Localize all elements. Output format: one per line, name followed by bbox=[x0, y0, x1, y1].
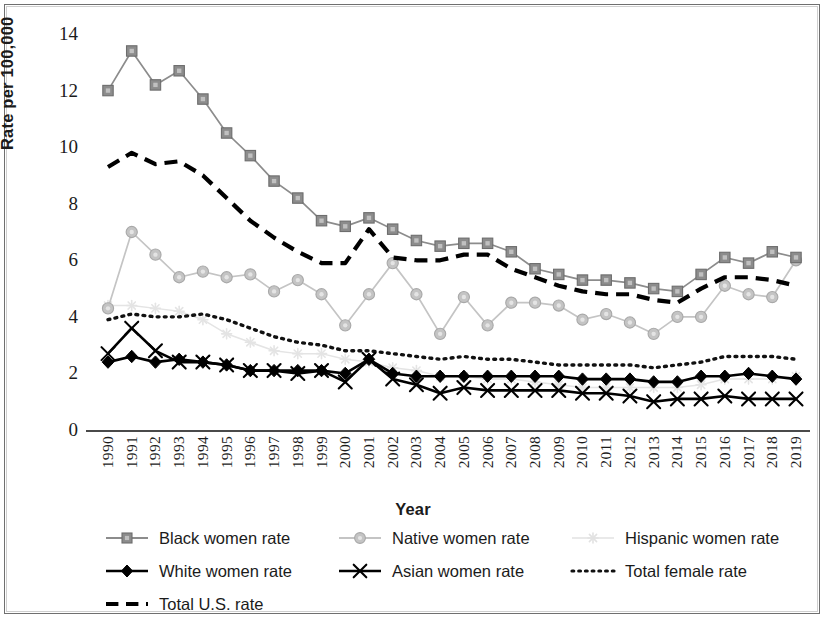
data-point bbox=[696, 269, 706, 279]
x-axis-tick-label: 1993 bbox=[170, 436, 188, 468]
legend-marker-circle-icon bbox=[337, 530, 383, 546]
data-point bbox=[482, 238, 492, 248]
data-point bbox=[174, 66, 184, 76]
data-point bbox=[245, 337, 255, 347]
data-point bbox=[269, 346, 279, 356]
data-point bbox=[743, 258, 753, 268]
data-point bbox=[601, 275, 611, 285]
data-point bbox=[529, 297, 540, 308]
data-point bbox=[150, 80, 160, 90]
data-point bbox=[719, 280, 730, 291]
data-point bbox=[387, 367, 399, 379]
data-point bbox=[648, 328, 659, 339]
legend-item[interactable]: Native women rate bbox=[337, 527, 530, 549]
data-point bbox=[743, 367, 755, 379]
legend-label: Asian women rate bbox=[392, 563, 524, 580]
data-point bbox=[767, 291, 778, 302]
data-point bbox=[245, 269, 256, 280]
y-axis-tick-label: 8 bbox=[38, 194, 78, 213]
data-point bbox=[577, 314, 588, 325]
x-axis-tick-label: 2009 bbox=[550, 436, 568, 468]
data-point bbox=[340, 320, 351, 331]
x-axis-tick-label: 2010 bbox=[573, 436, 591, 468]
x-axis-tick-label: 1997 bbox=[265, 436, 283, 468]
x-axis-tick-label: 2013 bbox=[645, 436, 663, 468]
data-point bbox=[221, 272, 232, 283]
series-canvas bbox=[86, 34, 808, 430]
data-point bbox=[648, 283, 658, 293]
data-point bbox=[482, 370, 494, 382]
data-point bbox=[125, 322, 138, 335]
x-axis-line bbox=[86, 430, 810, 432]
x-axis-tick-label: 2004 bbox=[431, 436, 449, 468]
x-axis-tick-label: 2014 bbox=[668, 436, 686, 468]
legend-label: Hispanic women rate bbox=[625, 530, 779, 547]
data-point bbox=[529, 370, 541, 382]
data-point bbox=[364, 213, 374, 223]
x-axis-tick-label: 2019 bbox=[787, 436, 805, 468]
data-point bbox=[174, 306, 184, 316]
data-point bbox=[340, 221, 350, 231]
data-point bbox=[577, 275, 587, 285]
data-point bbox=[482, 320, 493, 331]
data-point bbox=[696, 311, 707, 322]
data-point bbox=[268, 286, 279, 297]
data-point bbox=[222, 329, 232, 339]
x-axis-tick-label: 2017 bbox=[740, 436, 758, 468]
data-point bbox=[387, 224, 397, 234]
legend-marker-star-icon bbox=[570, 530, 616, 546]
data-point bbox=[127, 46, 137, 56]
x-axis-tick-label: 1998 bbox=[289, 436, 307, 468]
data-point bbox=[245, 150, 255, 160]
data-point bbox=[340, 354, 350, 364]
data-point bbox=[553, 300, 564, 311]
data-point bbox=[435, 328, 446, 339]
y-axis-tick-labels: 14121086420 bbox=[22, 0, 78, 470]
data-point bbox=[269, 176, 279, 186]
legend-item[interactable]: Total female rate bbox=[570, 560, 747, 582]
legend-item[interactable]: White women rate bbox=[104, 560, 292, 582]
x-axis-tick-label: 2003 bbox=[407, 436, 425, 468]
data-point bbox=[411, 235, 421, 245]
series-total-female-rate bbox=[108, 314, 796, 368]
x-axis-tick-labels: 1990199119921993199419951996199719981999… bbox=[86, 436, 808, 498]
y-axis-tick-label: 10 bbox=[38, 137, 78, 156]
data-point bbox=[173, 353, 185, 365]
data-point bbox=[530, 264, 540, 274]
data-point bbox=[625, 278, 635, 288]
x-axis-tick-label: 1991 bbox=[123, 436, 141, 468]
x-axis-tick-label: 1990 bbox=[99, 436, 117, 468]
legend-marker-none-icon bbox=[570, 563, 616, 579]
data-point bbox=[174, 272, 185, 283]
legend-marker-x-icon bbox=[337, 563, 383, 579]
data-point bbox=[316, 289, 327, 300]
data-point bbox=[150, 249, 161, 260]
data-point bbox=[293, 349, 303, 359]
data-point bbox=[743, 289, 754, 300]
x-axis-title: Year bbox=[0, 500, 826, 519]
data-point bbox=[648, 376, 660, 388]
data-point bbox=[363, 289, 374, 300]
data-point bbox=[672, 376, 684, 388]
x-axis-tick-label: 2000 bbox=[336, 436, 354, 468]
data-point bbox=[150, 356, 162, 368]
x-axis-tick-label: 2007 bbox=[502, 436, 520, 468]
data-point bbox=[506, 370, 518, 382]
data-point bbox=[221, 128, 231, 138]
data-point bbox=[624, 317, 635, 328]
x-axis-tick-label: 1992 bbox=[146, 436, 164, 468]
x-axis-tick-label: 2006 bbox=[479, 436, 497, 468]
data-point bbox=[103, 85, 113, 95]
legend-item[interactable]: Black women rate bbox=[104, 527, 290, 549]
legend-item[interactable]: Total U.S. rate bbox=[104, 593, 264, 615]
legend-label: White women rate bbox=[159, 563, 292, 580]
data-point bbox=[411, 289, 422, 300]
data-point bbox=[791, 252, 801, 262]
data-point bbox=[317, 349, 327, 359]
legend-label: Total female rate bbox=[625, 563, 747, 580]
legend-marker-diamond-icon bbox=[104, 563, 150, 579]
y-axis-tick-label: 6 bbox=[38, 250, 78, 269]
legend-item[interactable]: Hispanic women rate bbox=[570, 527, 779, 549]
y-axis-tick-label: 4 bbox=[38, 307, 78, 326]
legend-item[interactable]: Asian women rate bbox=[337, 560, 524, 582]
